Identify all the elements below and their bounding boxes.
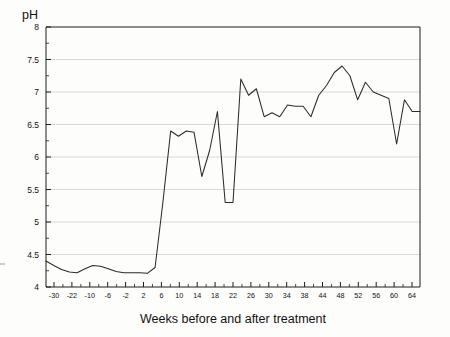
x-axis-title: Weeks before and after treatment bbox=[140, 312, 327, 326]
chart-figure: 44.555.566.577.58 -30-22-10-6-2261014182… bbox=[0, 0, 450, 337]
x-tick-label: -22 bbox=[67, 291, 77, 300]
x-tick-label: 44 bbox=[319, 291, 327, 300]
x-tick-label: 2 bbox=[142, 291, 146, 300]
x-tick-label: 38 bbox=[301, 291, 309, 300]
y-tick-label: 5 bbox=[34, 217, 39, 227]
x-tick-label: 14 bbox=[193, 291, 201, 300]
x-tick-label: -6 bbox=[104, 291, 110, 300]
x-tick-label: 6 bbox=[159, 291, 163, 300]
x-tick-label: 34 bbox=[283, 291, 291, 300]
x-tick-label: 18 bbox=[211, 291, 219, 300]
x-tick-label: 64 bbox=[408, 291, 416, 300]
x-tick-label: 48 bbox=[336, 291, 344, 300]
y-tick-label: 5.5 bbox=[27, 185, 39, 195]
y-axis-title: pH bbox=[22, 8, 38, 22]
x-tick-label: 26 bbox=[247, 291, 255, 300]
x-tick-label: 52 bbox=[354, 291, 362, 300]
ph-line-chart: 44.555.566.577.58 -30-22-10-6-2261014182… bbox=[0, 0, 450, 337]
y-tick-label: 6.5 bbox=[27, 120, 39, 130]
x-tick-label: -30 bbox=[49, 291, 59, 300]
y-tick-label: 7.5 bbox=[27, 55, 39, 65]
x-tick-label: 22 bbox=[229, 291, 237, 300]
y-tick-label: 4 bbox=[34, 282, 39, 292]
x-tick-label: -2 bbox=[122, 291, 128, 300]
x-axis-tick-labels: -30-22-10-6-2261014182226303438444852566… bbox=[49, 291, 416, 300]
x-tick-label: -10 bbox=[85, 291, 95, 300]
x-tick-label: 56 bbox=[372, 291, 380, 300]
x-axis-ticks bbox=[54, 282, 412, 287]
x-tick-label: 30 bbox=[265, 291, 273, 300]
y-tick-label: 7 bbox=[34, 87, 39, 97]
chart-background bbox=[0, 0, 450, 337]
x-tick-label: 10 bbox=[175, 291, 183, 300]
y-tick-label: 6 bbox=[34, 152, 39, 162]
y-tick-label: 4.5 bbox=[27, 250, 39, 260]
y-tick-label: 8 bbox=[34, 22, 39, 32]
x-tick-label: 60 bbox=[390, 291, 398, 300]
